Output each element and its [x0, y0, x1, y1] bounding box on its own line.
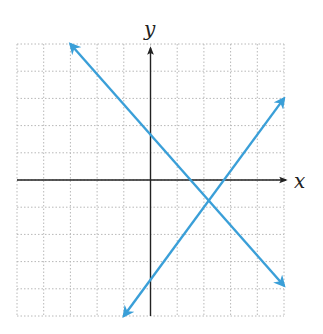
- coordinate-plane: x y: [0, 0, 323, 334]
- y-axis-label: y: [143, 17, 156, 41]
- x-axis-label: x: [294, 169, 305, 193]
- axes: [17, 48, 286, 316]
